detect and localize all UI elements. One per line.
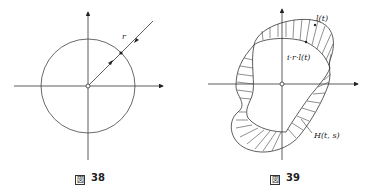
figures-canvas [0,0,368,193]
curve-l-label: l(t) [316,14,328,23]
outward-arrow-icon [108,60,113,65]
composite-curve-label: i·r·l(t) [287,53,310,62]
caption-prefix: 図 [270,175,280,185]
radius-label: r [122,32,126,41]
origin-point [86,84,90,88]
point-on-irl [305,41,307,43]
caption-fig-39: 図39 [270,172,300,185]
caption-prefix: 図 [75,175,85,185]
caption-fig-38: 図38 [75,172,105,185]
caption-number: 39 [286,172,300,183]
intersection-point [119,51,122,54]
origin-point [280,82,284,86]
caption-number: 38 [91,172,105,183]
homotopy-label: H(t, s) [314,131,340,140]
point-on-l [314,24,316,26]
figure-38 [14,12,163,160]
